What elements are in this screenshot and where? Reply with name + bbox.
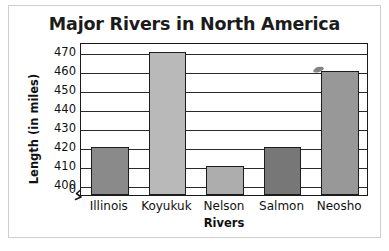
x-axis-tick-labels: IllinoisKoyukukNelsonSalmonNeosho <box>80 199 368 217</box>
x-tick-label-salmon: Salmon <box>253 199 311 213</box>
y-tick-label: 430 <box>40 123 76 135</box>
bar-salmon <box>264 147 302 195</box>
bar-illinois <box>91 147 129 195</box>
bar-neosho <box>321 71 359 195</box>
chart-figure: Major Rivers in North America Length (in… <box>0 0 389 251</box>
y-tick-label: 420 <box>40 142 76 154</box>
y-tick-label-origin: 0 <box>40 184 76 196</box>
y-axis-tick-labels: 4704604504404304204104000 <box>40 0 76 251</box>
bar-nelson <box>206 166 244 195</box>
x-tick-label-nelson: Nelson <box>195 199 253 213</box>
bar-koyukuk <box>149 52 187 195</box>
y-tick-label: 410 <box>40 161 76 173</box>
y-tick-label: 440 <box>40 104 76 116</box>
y-tick-label: 470 <box>40 47 76 59</box>
plot-area <box>80 43 368 196</box>
x-axis-title: Rivers <box>80 216 368 230</box>
y-tick-label: 450 <box>40 85 76 97</box>
x-tick-label-koyukuk: Koyukuk <box>138 199 196 213</box>
y-axis-title: Length (in miles) <box>27 59 41 199</box>
x-tick-label-illinois: Illinois <box>80 199 138 213</box>
x-tick-label-neosho: Neosho <box>310 199 368 213</box>
y-tick-label: 460 <box>40 66 76 78</box>
bar-series <box>81 44 367 195</box>
